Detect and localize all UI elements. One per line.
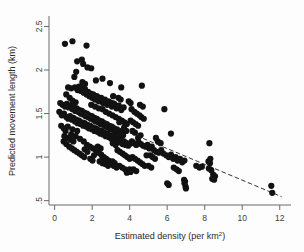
- data-point: [132, 130, 138, 136]
- data-point: [166, 182, 172, 188]
- chart-figure: .511.522.5 024681012 Predicted movement …: [0, 0, 304, 252]
- x-axis-ticks: [55, 205, 280, 210]
- data-point: [89, 157, 95, 163]
- data-point: [181, 180, 187, 186]
- data-point: [148, 164, 154, 170]
- data-point: [71, 74, 77, 80]
- data-point: [83, 43, 89, 49]
- scatter-points: [56, 38, 275, 196]
- data-point: [211, 177, 217, 183]
- data-point: [152, 156, 158, 162]
- data-point: [107, 80, 113, 86]
- x-tick-label: 12: [275, 213, 285, 223]
- x-axis-title: Estimated density (per km2): [115, 231, 225, 241]
- data-point: [139, 83, 145, 89]
- data-point: [69, 38, 75, 44]
- data-point: [133, 168, 139, 174]
- data-point: [176, 168, 182, 174]
- data-point: [88, 65, 94, 71]
- data-point: [206, 140, 212, 146]
- x-tick-label: 2: [90, 213, 95, 223]
- data-point: [168, 130, 174, 136]
- data-point: [74, 128, 80, 134]
- y-tick-label: .5: [34, 197, 44, 204]
- data-point: [61, 133, 67, 139]
- data-point: [268, 183, 274, 189]
- data-point: [113, 142, 119, 148]
- scatter-plot-svg: .511.522.5 024681012 Predicted movement …: [0, 0, 304, 252]
- data-point: [99, 76, 105, 82]
- x-tick-label: 8: [202, 213, 207, 223]
- data-point: [118, 84, 124, 90]
- data-point: [81, 154, 87, 160]
- data-point: [73, 99, 79, 105]
- x-tick-label: 0: [52, 213, 57, 223]
- y-axis-title: Predicted movement length (km): [7, 46, 17, 176]
- data-point: [181, 157, 187, 163]
- data-point: [140, 103, 146, 109]
- data-point: [135, 123, 141, 129]
- data-point: [82, 81, 88, 87]
- data-point: [97, 145, 103, 151]
- x-tick-label: 4: [127, 213, 132, 223]
- y-tick-labels: .511.522.5: [34, 20, 44, 204]
- data-point: [161, 106, 167, 112]
- y-axis-ticks: [44, 26, 49, 200]
- data-point: [118, 97, 124, 103]
- data-point: [109, 100, 115, 106]
- x-tick-label: 10: [237, 213, 247, 223]
- data-point: [128, 100, 134, 106]
- y-tick-label: 1.5: [34, 107, 44, 119]
- data-point: [183, 185, 189, 191]
- data-point: [82, 146, 88, 152]
- data-point: [269, 190, 275, 196]
- data-point: [63, 91, 69, 97]
- data-point: [116, 119, 122, 125]
- data-point: [141, 116, 147, 122]
- x-tick-label: 6: [165, 213, 170, 223]
- data-point: [93, 77, 99, 83]
- data-point: [62, 41, 68, 47]
- x-tick-labels: 024681012: [52, 213, 284, 223]
- data-point: [153, 135, 159, 141]
- y-tick-label: 2: [34, 67, 44, 72]
- data-point: [143, 152, 149, 158]
- data-point: [207, 156, 213, 162]
- data-point: [121, 104, 127, 110]
- x-axis-title-main: Estimated density (per km: [115, 231, 219, 241]
- data-point: [128, 169, 134, 175]
- x-axis-title-tail: ): [222, 231, 225, 241]
- y-tick-label: 2.5: [34, 20, 44, 32]
- data-point: [110, 93, 116, 99]
- y-tick-label: 1: [34, 154, 44, 159]
